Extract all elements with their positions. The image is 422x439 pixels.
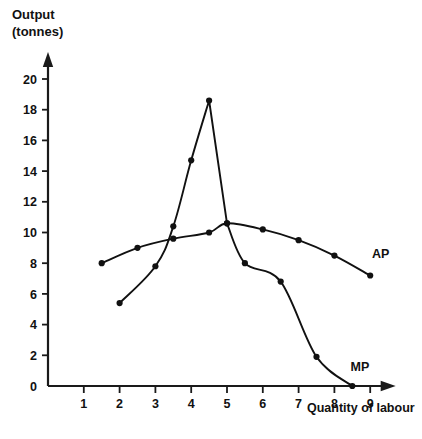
data-point-marker <box>206 97 212 103</box>
x-tick-label: 6 <box>259 397 266 411</box>
y-tick-label: 4 <box>30 318 37 332</box>
x-tick-label: 5 <box>224 397 231 411</box>
y-axis-arrow-icon <box>43 52 53 67</box>
data-series <box>99 97 374 389</box>
y-axis-title-line2: (tonnes) <box>12 24 63 39</box>
y-tick-label: 6 <box>30 288 37 302</box>
y-axis-ticks: 02468101214161820 <box>23 73 48 394</box>
y-axis-title-line1: Output <box>12 7 55 22</box>
data-point-marker <box>117 300 123 306</box>
y-tick-label: 2 <box>30 349 37 363</box>
chart-container: Output (tonnes) 02468101214161820 123456… <box>0 0 422 439</box>
y-tick-label: 12 <box>23 195 37 209</box>
x-tick-label: 3 <box>152 397 159 411</box>
data-point-marker <box>313 354 319 360</box>
x-tick-label: 7 <box>295 397 302 411</box>
y-tick-label: 0 <box>30 380 37 394</box>
data-point-marker <box>206 229 212 235</box>
data-point-marker <box>349 383 355 389</box>
data-point-marker <box>260 226 266 232</box>
y-tick-label: 18 <box>23 103 37 117</box>
y-tick-label: 10 <box>23 226 37 240</box>
y-tick-label: 20 <box>23 73 37 87</box>
data-point-marker <box>224 220 230 226</box>
x-axis-arrow-icon <box>381 381 396 391</box>
x-axis-title: Quantity of labour <box>307 401 415 415</box>
data-point-marker <box>296 237 302 243</box>
axes <box>43 52 396 391</box>
x-tick-label: 1 <box>80 397 87 411</box>
series-label-ap: AP <box>372 247 389 261</box>
x-tick-label: 4 <box>188 397 195 411</box>
data-point-marker <box>278 279 284 285</box>
series-label-mp: MP <box>351 360 370 374</box>
data-point-marker <box>188 157 194 163</box>
data-point-marker <box>170 236 176 242</box>
y-tick-label: 8 <box>30 257 37 271</box>
production-function-chart: Output (tonnes) 02468101214161820 123456… <box>0 0 422 439</box>
y-tick-label: 14 <box>23 165 37 179</box>
data-point-marker <box>134 245 140 251</box>
x-tick-label: 2 <box>116 397 123 411</box>
data-point-marker <box>367 272 373 278</box>
data-point-marker <box>331 252 337 258</box>
data-point-marker <box>242 260 248 266</box>
data-point-marker <box>152 263 158 269</box>
y-tick-label: 16 <box>23 134 37 148</box>
data-point-marker <box>99 260 105 266</box>
series-labels: MPAP <box>351 247 390 375</box>
data-point-marker <box>170 223 176 229</box>
